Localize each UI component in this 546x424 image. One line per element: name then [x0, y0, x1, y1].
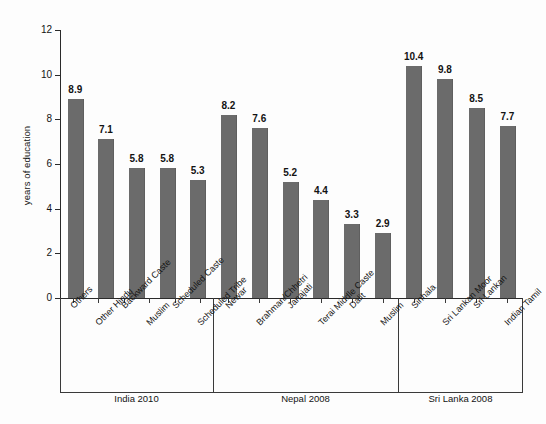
- bar-chart: years of education 024681012 8.97.15.85.…: [0, 0, 546, 424]
- x-tick-mark: [200, 298, 201, 303]
- group-caption: Sri Lanka 2008: [398, 394, 523, 404]
- group-caption: Nepal 2008: [213, 394, 398, 404]
- bar-value-label: 5.3: [182, 166, 214, 176]
- bar-value-label: 7.6: [243, 114, 275, 124]
- bar-value-label: 3.3: [336, 210, 368, 220]
- bar: [221, 115, 237, 298]
- y-tick-label: 6: [26, 159, 52, 169]
- bar: [469, 108, 485, 298]
- bar-value-label: 4.4: [305, 186, 337, 196]
- bar: [98, 139, 114, 298]
- group-caption: India 2010: [60, 394, 213, 404]
- bar-value-label: 2.9: [367, 219, 399, 229]
- bar-value-label: 10.4: [398, 52, 430, 62]
- y-tick-label: 10: [26, 70, 52, 80]
- bar-value-label: 5.2: [274, 168, 306, 178]
- bar-value-label: 8.9: [59, 85, 91, 95]
- x-tick-mark: [445, 298, 446, 303]
- bar: [375, 233, 391, 298]
- bar: [252, 128, 268, 298]
- x-tick-mark: [98, 298, 99, 303]
- bar: [68, 99, 84, 298]
- bar-value-label: 7.1: [90, 125, 122, 135]
- bar: [500, 126, 516, 298]
- y-tick-label: 12: [26, 25, 52, 35]
- bar-value-label: 8.2: [212, 101, 244, 111]
- bar: [437, 79, 453, 298]
- bar-value-label: 9.8: [429, 65, 461, 75]
- y-tick-label: 0: [26, 293, 52, 303]
- bar-value-label: 8.5: [460, 94, 492, 104]
- bar-value-label: 7.7: [491, 112, 523, 122]
- bar: [313, 200, 329, 298]
- x-tick-mark: [507, 298, 508, 303]
- y-tick-label: 4: [26, 204, 52, 214]
- bar: [406, 66, 422, 298]
- bar-value-label: 5.8: [121, 154, 153, 164]
- x-tick-mark: [383, 298, 384, 303]
- bar: [160, 168, 176, 298]
- x-tick-mark: [321, 298, 322, 303]
- bar-value-label: 5.8: [151, 154, 183, 164]
- x-tick-mark: [149, 298, 150, 303]
- y-tick-label: 8: [26, 114, 52, 124]
- y-tick-label: 2: [26, 248, 52, 258]
- x-tick-mark: [259, 298, 260, 303]
